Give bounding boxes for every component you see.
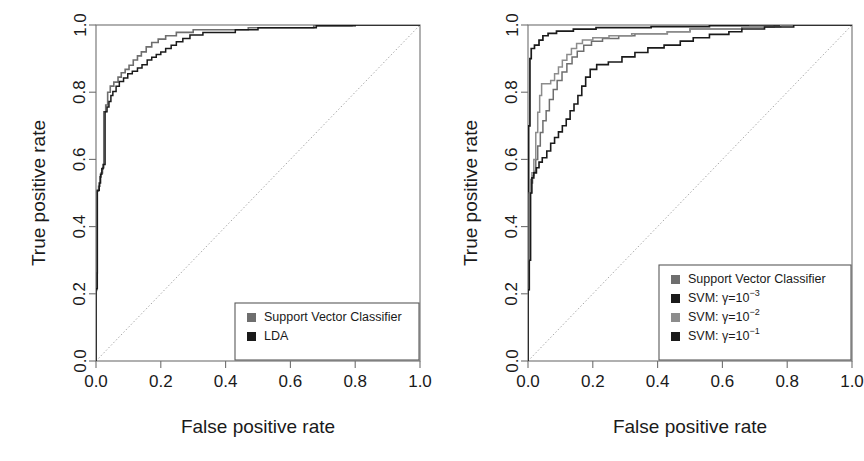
right-plot: 0.00.20.40.60.81.00.00.20.40.60.81.0Fals…	[432, 0, 864, 461]
right-xtick-label: 1.0	[840, 372, 864, 391]
left-plot: 0.00.20.40.60.81.00.00.20.40.60.81.0Fals…	[0, 0, 432, 461]
left-yaxis-title: True positive rate	[28, 120, 49, 266]
left-xtick-label: 0.6	[279, 372, 303, 391]
left-xaxis-title: False positive rate	[181, 416, 335, 437]
right-legend-label-3: SVM: γ=10−1	[688, 326, 760, 343]
left-ytick-label: 0.2	[71, 282, 90, 306]
right-xtick-label: 0.4	[646, 372, 670, 391]
right-legend-swatch-3	[671, 332, 680, 341]
left-xtick-label: 0.8	[343, 372, 367, 391]
left-ytick-label: 0.8	[71, 80, 90, 104]
right-xtick-label: 0.8	[775, 372, 799, 391]
right-legend-label-0: Support Vector Classifier	[688, 272, 826, 286]
left-xtick-label: 0.4	[214, 372, 238, 391]
left-xtick-label: 0.0	[84, 372, 108, 391]
left-legend-label-0: Support Vector Classifier	[264, 310, 402, 324]
right-yaxis-title: True positive rate	[460, 120, 481, 266]
right-ytick-label: 0.4	[503, 215, 522, 239]
right-legend-swatch-2	[671, 313, 680, 322]
right-ytick-label: 0.6	[503, 148, 522, 172]
left-ytick-label: 0.4	[71, 215, 90, 239]
roc-figure: 0.00.20.40.60.81.00.00.20.40.60.81.0Fals…	[0, 0, 864, 461]
right-legend-swatch-0	[671, 275, 680, 284]
left-xtick-label: 1.0	[408, 372, 432, 391]
roc-panel-left: 0.00.20.40.60.81.00.00.20.40.60.81.0Fals…	[0, 0, 432, 461]
left-xtick-label: 0.2	[149, 372, 173, 391]
left-legend-label-1: LDA	[264, 329, 289, 343]
roc-panel-right: 0.00.20.40.60.81.00.00.20.40.60.81.0Fals…	[432, 0, 864, 461]
right-ytick-label: 0.2	[503, 282, 522, 306]
left-legend-swatch-0	[247, 313, 256, 322]
right-xtick-label: 0.6	[711, 372, 735, 391]
left-ytick-label: 0.0	[71, 349, 90, 373]
right-ytick-label: 0.8	[503, 80, 522, 104]
left-ytick-label: 0.6	[71, 148, 90, 172]
right-ytick-label: 1.0	[503, 13, 522, 37]
right-xtick-label: 0.2	[581, 372, 605, 391]
left-ytick-label: 1.0	[71, 13, 90, 37]
right-xtick-label: 0.0	[516, 372, 540, 391]
left-legend-swatch-1	[247, 332, 256, 341]
right-legend-swatch-1	[671, 294, 680, 303]
right-xaxis-title: False positive rate	[613, 416, 767, 437]
right-ytick-label: 0.0	[503, 349, 522, 373]
right-legend-label-2: SVM: γ=10−2	[688, 307, 760, 324]
right-legend-label-1: SVM: γ=10−3	[688, 288, 760, 305]
